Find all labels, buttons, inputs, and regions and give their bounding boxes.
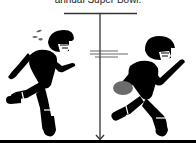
illustration [0, 0, 196, 143]
bottom-bar [0, 140, 196, 143]
player-fleeing-icon [6, 30, 75, 137]
football-icon [113, 81, 133, 95]
speed-lines-icon [90, 51, 128, 57]
player-carrying-football-icon [111, 36, 185, 136]
vertical-arrow-divider [64, 14, 137, 140]
